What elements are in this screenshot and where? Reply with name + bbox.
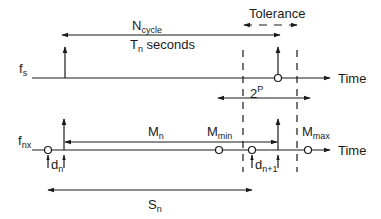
fnx-sample-marker-end xyxy=(249,147,256,154)
fs-label: fs xyxy=(19,62,27,78)
tolerance-label: Tolerance xyxy=(249,7,305,20)
dn1-label-sub: n+1 xyxy=(262,164,277,174)
fs-label-sub: s xyxy=(23,68,28,78)
tn-label-main: T xyxy=(130,37,138,52)
two-p-label: 2P xyxy=(250,85,263,100)
ncycle-label-main: N xyxy=(132,18,141,33)
bottom-time-label: Time xyxy=(338,144,366,157)
two-p-label-sup: P xyxy=(257,84,263,94)
timing-diagram xyxy=(0,0,381,219)
tn-label: Tn seconds xyxy=(130,38,195,54)
mn-label: Mn xyxy=(148,125,164,141)
fnx-sample-marker-start xyxy=(45,147,52,154)
sn-label-main: S xyxy=(148,197,157,212)
fnx-label-sub: nx xyxy=(22,140,32,150)
dn1-label: dn+1 xyxy=(255,158,278,174)
fs-sample-marker xyxy=(275,75,282,82)
sn-label-sub: n xyxy=(157,204,162,214)
sn-label: Sn xyxy=(148,198,162,214)
fnx-label: fnx xyxy=(18,134,31,150)
mmax-label-main: M xyxy=(302,124,313,139)
mmax-marker xyxy=(305,147,312,154)
dn-label: dn xyxy=(51,158,63,174)
top-time-label: Time xyxy=(338,72,366,85)
mmax-label: Mmax xyxy=(302,125,330,141)
mn-label-main: M xyxy=(148,124,159,139)
mmax-label-sub: max xyxy=(313,131,330,141)
dn-label-sub: n xyxy=(58,164,63,174)
mmin-label-sub: min xyxy=(218,131,233,141)
ncycle-label: Ncycle xyxy=(132,19,162,35)
tn-label-suffix: seconds xyxy=(143,37,195,52)
mmin-marker xyxy=(216,147,223,154)
mmin-label: Mmin xyxy=(207,125,232,141)
mn-label-sub: n xyxy=(159,131,164,141)
mmin-label-main: M xyxy=(207,124,218,139)
ncycle-label-sub: cycle xyxy=(141,25,162,35)
